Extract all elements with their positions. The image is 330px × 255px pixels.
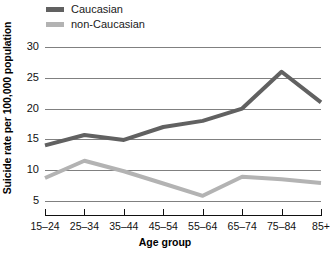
x-axis-tick-label: 65–74 [228,220,257,232]
x-axis-tick-label: 25–34 [70,220,99,232]
x-axis-tick [45,209,46,216]
legend-label-non-caucasian: non-Caucasian [71,18,145,31]
x-axis-tick-label: 35–44 [109,220,138,232]
legend-swatch-non-caucasian [46,22,64,27]
y-axis-tick-label: 15 [17,132,39,144]
y-axis-title-text: Suicide rate per 100,000 population [1,22,13,195]
x-axis-tick-label: 55–64 [188,220,217,232]
x-axis-tick [163,209,164,216]
x-axis-tick [282,209,283,216]
series-line-non-caucasian [45,161,321,196]
suicide-rate-line-chart: Caucasian non-Caucasian Suicide rate per… [0,0,330,255]
series-line-caucasian [45,72,321,146]
x-axis-tick [242,209,243,216]
legend-swatch-caucasian [46,7,64,12]
legend-label-caucasian: Caucasian [71,3,123,16]
y-axis-tick-label: 20 [17,102,39,114]
chart-legend: Caucasian non-Caucasian [46,3,145,31]
plot-area [45,41,321,213]
y-axis-tick-label: 5 [17,194,39,206]
x-axis-tick-label: 85+ [312,220,330,232]
legend-item-caucasian: Caucasian [46,3,145,16]
x-axis-line [45,215,321,216]
y-axis-tick-label: 10 [17,163,39,175]
x-axis-title: Age group [0,236,330,248]
x-axis-tick [203,209,204,216]
y-axis-tick-label: 30 [17,40,39,52]
x-axis-tick-label: 45–54 [149,220,178,232]
series-layer [45,41,321,213]
x-axis-tick [124,209,125,216]
y-axis-tick-labels: 51015202530 [17,41,39,213]
y-axis-title: Suicide rate per 100,000 population [0,0,14,216]
x-axis-tick [84,209,85,216]
legend-item-non-caucasian: non-Caucasian [46,18,145,31]
x-axis-tick-label: 15–24 [30,220,59,232]
x-axis-tick-label: 75–84 [267,220,296,232]
y-axis-tick-label: 25 [17,71,39,83]
x-axis-tick [321,209,322,216]
